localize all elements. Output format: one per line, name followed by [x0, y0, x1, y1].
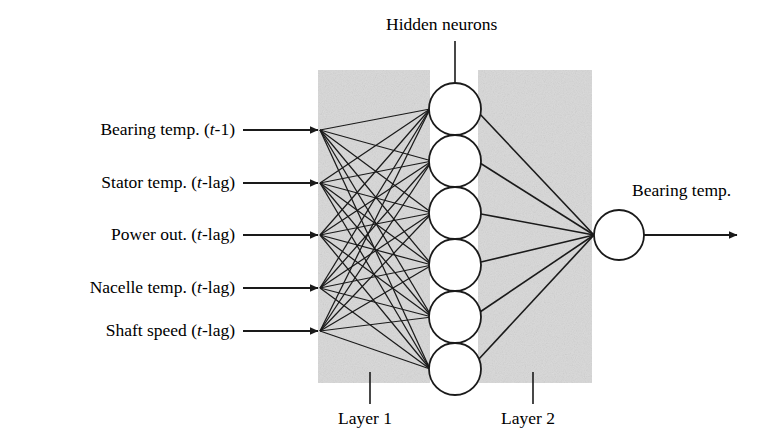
output-label: Bearing temp.: [632, 182, 731, 200]
input-label-1-prefix: Bearing temp. (: [100, 119, 209, 139]
input-label-2-suffix: -lag): [202, 172, 235, 192]
hidden-neuron-3: [429, 187, 481, 239]
input-label-1-suffix: -1): [215, 119, 235, 139]
input-label-4-prefix: Nacelle temp. (: [90, 277, 197, 297]
output-neuron: [594, 210, 644, 260]
input-label-nacelle-temp: Nacelle temp. (t-lag): [90, 279, 235, 297]
hidden-neurons: [429, 83, 481, 395]
input-label-3-prefix: Power out. (: [111, 224, 197, 244]
layer2-label: Layer 2: [501, 410, 555, 428]
input-arrows: [243, 130, 318, 331]
hidden-neuron-1: [429, 83, 481, 135]
hidden-neuron-6: [429, 343, 481, 395]
hidden-neurons-label: Hidden neurons: [386, 16, 497, 34]
input-label-stator-temp: Stator temp. (t-lag): [101, 174, 235, 192]
layer2-band: [478, 70, 592, 383]
hidden-neuron-2: [429, 135, 481, 187]
input-label-3-suffix: -lag): [202, 224, 235, 244]
input-label-5-suffix: -lag): [202, 320, 235, 340]
input-label-power-out: Power out. (t-lag): [111, 226, 235, 244]
hidden-neuron-5: [429, 291, 481, 343]
hidden-neuron-4: [429, 239, 481, 291]
layer1-label: Layer 1: [338, 410, 392, 428]
input-label-4-suffix: -lag): [202, 277, 235, 297]
neural-network-diagram: Hidden neurons Bearing temp. (t-1) Stato…: [0, 0, 780, 447]
input-label-shaft-speed: Shaft speed (t-lag): [106, 322, 235, 340]
input-label-bearing-temp: Bearing temp. (t-1): [100, 121, 235, 139]
input-label-5-prefix: Shaft speed (: [106, 320, 197, 340]
input-label-2-prefix: Stator temp. (: [101, 172, 197, 192]
